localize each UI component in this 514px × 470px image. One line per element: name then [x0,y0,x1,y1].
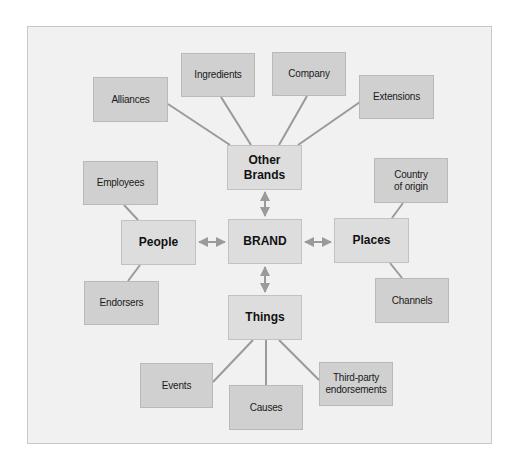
node-label: People [139,235,178,249]
node-label: Employees [97,177,145,189]
node-endorsers: Endorsers [84,281,159,325]
node-ingredients: Ingredients [181,53,255,97]
node-label: Country of origin [394,169,428,193]
node-label: Alliances [111,94,149,106]
node-country-of-origin: Country of origin [374,158,448,203]
node-label: Company [288,68,329,80]
node-other-brands: Other Brands [227,145,302,190]
node-channels: Channels [375,278,449,323]
node-label: Third-party endorsements [326,372,387,396]
node-things: Things [228,295,302,340]
node-label: Places [352,233,390,247]
node-places: Places [334,218,409,263]
node-label: Other Brands [244,153,285,182]
node-label: Events [162,380,191,392]
node-company: Company [272,52,346,96]
node-label: Extensions [373,91,420,103]
node-third-party-endorsements: Third-party endorsements [319,362,393,406]
node-brand-center: BRAND [228,219,302,264]
node-label: Things [245,310,284,324]
node-people: People [121,220,196,265]
node-label: Channels [392,295,433,307]
node-events: Events [140,363,213,408]
node-label: BRAND [243,234,286,248]
node-causes: Causes [229,385,303,430]
node-label: Causes [250,402,283,414]
node-label: Endorsers [100,297,144,309]
node-label: Ingredients [194,69,241,81]
node-employees: Employees [83,161,158,205]
node-alliances: Alliances [93,77,168,122]
node-extensions: Extensions [359,75,434,119]
